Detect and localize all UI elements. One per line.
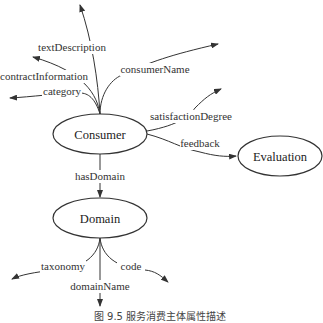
label-hasDomain: hasDomain (75, 170, 126, 182)
label-consumerName: consumerName (120, 63, 189, 75)
consumer-property-edges (10, 5, 236, 197)
node-consumer-label: Consumer (74, 128, 126, 142)
node-domain-label: Domain (80, 212, 121, 226)
ontology-diagram: Consumer Evaluation Domain textDescrip (0, 0, 323, 323)
label-domainName: domainName (70, 280, 129, 292)
node-evaluation: Evaluation (238, 136, 322, 176)
figure-caption: 图 9.5 服务消费主体属性描述 (94, 310, 226, 322)
edge-textDescription (80, 5, 100, 114)
label-category: category (43, 85, 81, 97)
label-taxonomy: taxonomy (41, 260, 85, 272)
label-textDescription: textDescription (38, 41, 106, 53)
node-evaluation-label: Evaluation (253, 150, 308, 164)
node-consumer: Consumer (53, 114, 147, 154)
node-domain: Domain (53, 198, 147, 238)
label-code: code (121, 260, 142, 272)
label-feedback: feedback (180, 137, 220, 149)
label-satisfactionDegree: satisfactionDegree (150, 110, 232, 122)
label-contractInformation: contractInformation (0, 70, 88, 82)
